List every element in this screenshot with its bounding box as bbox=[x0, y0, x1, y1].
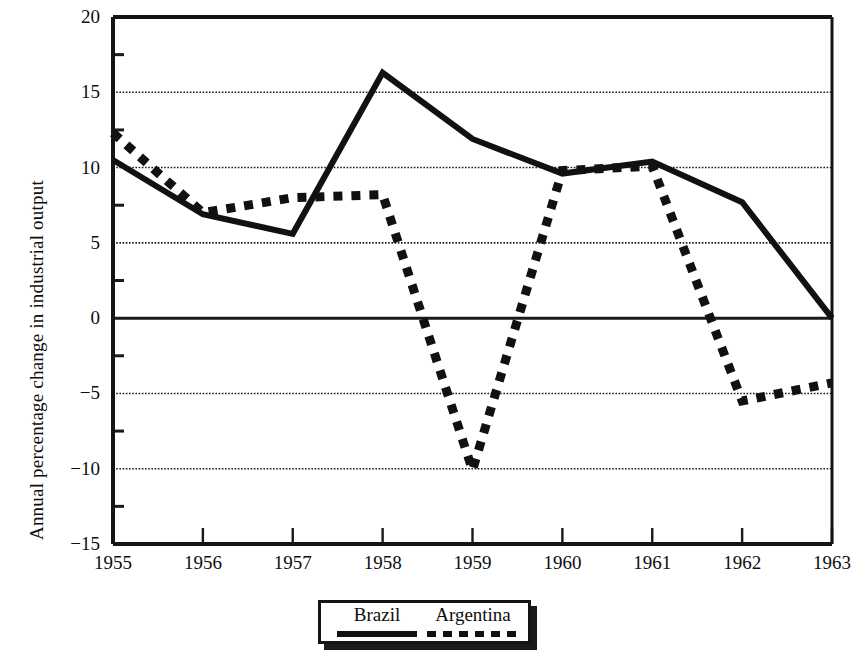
x-tick-label-1955: 1955 bbox=[68, 552, 158, 574]
x-tick-label-1961: 1961 bbox=[607, 552, 697, 574]
plot-area bbox=[0, 0, 847, 600]
x-axis-tick-marks bbox=[113, 528, 832, 544]
x-tick-label-1963: 1963 bbox=[787, 552, 855, 574]
x-tick-label-1960: 1960 bbox=[517, 552, 607, 574]
series-line-brazil bbox=[113, 73, 832, 318]
legend-swatch-solid-line bbox=[337, 631, 417, 637]
data-series-layer bbox=[113, 73, 832, 471]
x-tick-label-1962: 1962 bbox=[697, 552, 787, 574]
x-tick-label-1959: 1959 bbox=[428, 552, 518, 574]
chart-legend: Brazil Argentina bbox=[318, 600, 537, 650]
x-tick-label-1957: 1957 bbox=[248, 552, 338, 574]
gridlines bbox=[113, 92, 832, 468]
x-tick-label-1956: 1956 bbox=[158, 552, 248, 574]
legend-entry-brazil: Brazil bbox=[335, 603, 419, 641]
legend-box: Brazil Argentina bbox=[318, 600, 531, 644]
x-axis-tick-labels: 195519561957195819591960196119621963 bbox=[0, 552, 847, 586]
legend-label-brazil: Brazil bbox=[335, 604, 419, 626]
series-line-argentina bbox=[113, 133, 832, 470]
legend-label-argentina: Argentina bbox=[425, 604, 521, 626]
legend-swatch-dashed-line bbox=[427, 631, 519, 637]
x-tick-label-1958: 1958 bbox=[338, 552, 428, 574]
legend-entry-argentina: Argentina bbox=[425, 603, 521, 641]
